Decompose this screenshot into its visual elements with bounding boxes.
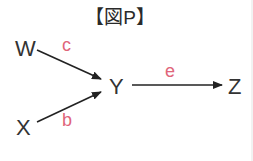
edge-label-c: c xyxy=(62,36,71,54)
node-y: Y xyxy=(109,76,124,98)
node-w: W xyxy=(15,38,36,60)
node-x: X xyxy=(16,117,31,139)
edge-label-b: b xyxy=(62,111,72,129)
right-edge-border xyxy=(251,0,253,161)
edge-label-e: e xyxy=(165,62,175,80)
edges-layer xyxy=(0,0,253,161)
diagram-canvas: 【図P】 W X Y Z c b e xyxy=(0,0,253,161)
node-z: Z xyxy=(228,76,241,98)
